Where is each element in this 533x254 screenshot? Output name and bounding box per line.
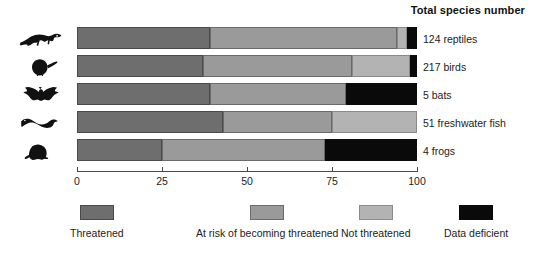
bar-segment-threatened <box>77 139 162 161</box>
chart-legend: ThreatenedAt risk of becoming threatened… <box>0 205 533 251</box>
legend-label: At risk of becoming threatened <box>196 227 338 239</box>
chart-row: 217 birds <box>0 53 533 81</box>
legend-swatch-at-risk <box>250 205 284 220</box>
chart-rows: 124 reptiles217 birds5 bats51 freshwater… <box>0 25 533 165</box>
stacked-bar <box>77 27 417 49</box>
row-label: 5 bats <box>423 89 452 101</box>
x-axis-tick-label: 100 <box>408 175 426 187</box>
chart-row: 4 frogs <box>0 137 533 165</box>
x-axis-tick-label: 50 <box>241 175 253 187</box>
x-axis-tick-label: 75 <box>326 175 338 187</box>
x-axis: 0255075100 <box>77 171 417 195</box>
row-label: 217 birds <box>423 61 466 73</box>
x-axis-tick <box>247 167 248 172</box>
bar-segment-data-deficient <box>325 139 417 161</box>
x-axis-tick-label: 0 <box>74 175 80 187</box>
fish-icon <box>18 111 64 135</box>
legend-swatch-threatened <box>80 205 114 220</box>
row-label: 51 freshwater fish <box>423 117 506 129</box>
bar-segment-at-risk <box>203 55 353 77</box>
stacked-bar <box>77 83 417 105</box>
chart-row: 124 reptiles <box>0 25 533 53</box>
bird-icon <box>18 55 64 79</box>
legend-item-data-deficient[interactable]: Data deficient <box>444 205 508 239</box>
stacked-bar <box>77 111 417 133</box>
bar-segment-at-risk <box>162 139 325 161</box>
legend-swatch-not-threatened <box>359 205 393 220</box>
bar-segment-threatened <box>77 83 210 105</box>
frog-icon <box>18 139 64 163</box>
bar-segment-at-risk <box>210 83 346 105</box>
legend-item-not-threatened[interactable]: Not threatened <box>341 205 410 239</box>
x-axis-tick <box>417 167 418 172</box>
x-axis-tick <box>162 167 163 172</box>
bar-segment-data-deficient <box>346 83 417 105</box>
bar-segment-at-risk <box>223 111 332 133</box>
row-label: 4 frogs <box>423 145 455 157</box>
chart-row: 51 freshwater fish <box>0 109 533 137</box>
bar-segment-at-risk <box>210 27 397 49</box>
legend-item-at-risk[interactable]: At risk of becoming threatened <box>196 205 338 239</box>
bat-icon <box>18 83 64 107</box>
bar-segment-threatened <box>77 111 223 133</box>
bar-segment-not-threatened <box>332 111 417 133</box>
stacked-bar <box>77 139 417 161</box>
bar-segment-data-deficient <box>407 27 417 49</box>
bar-segment-data-deficient <box>410 55 417 77</box>
legend-label: Not threatened <box>341 227 410 239</box>
bar-segment-not-threatened <box>352 55 410 77</box>
reptile-icon <box>18 27 64 51</box>
legend-label: Data deficient <box>444 227 508 239</box>
chart-title: Total species number <box>411 4 525 16</box>
bar-segment-threatened <box>77 55 203 77</box>
stacked-bar <box>77 55 417 77</box>
x-axis-tick <box>77 167 78 172</box>
row-label: 124 reptiles <box>423 33 477 45</box>
x-axis-tick-label: 25 <box>156 175 168 187</box>
x-axis-tick <box>332 167 333 172</box>
legend-item-threatened[interactable]: Threatened <box>70 205 124 239</box>
bar-segment-threatened <box>77 27 210 49</box>
legend-label: Threatened <box>70 227 124 239</box>
bar-segment-not-threatened <box>397 27 407 49</box>
legend-swatch-data-deficient <box>459 205 493 220</box>
chart-row: 5 bats <box>0 81 533 109</box>
stacked-bar-chart: Total species number 124 reptiles217 bir… <box>0 0 533 254</box>
